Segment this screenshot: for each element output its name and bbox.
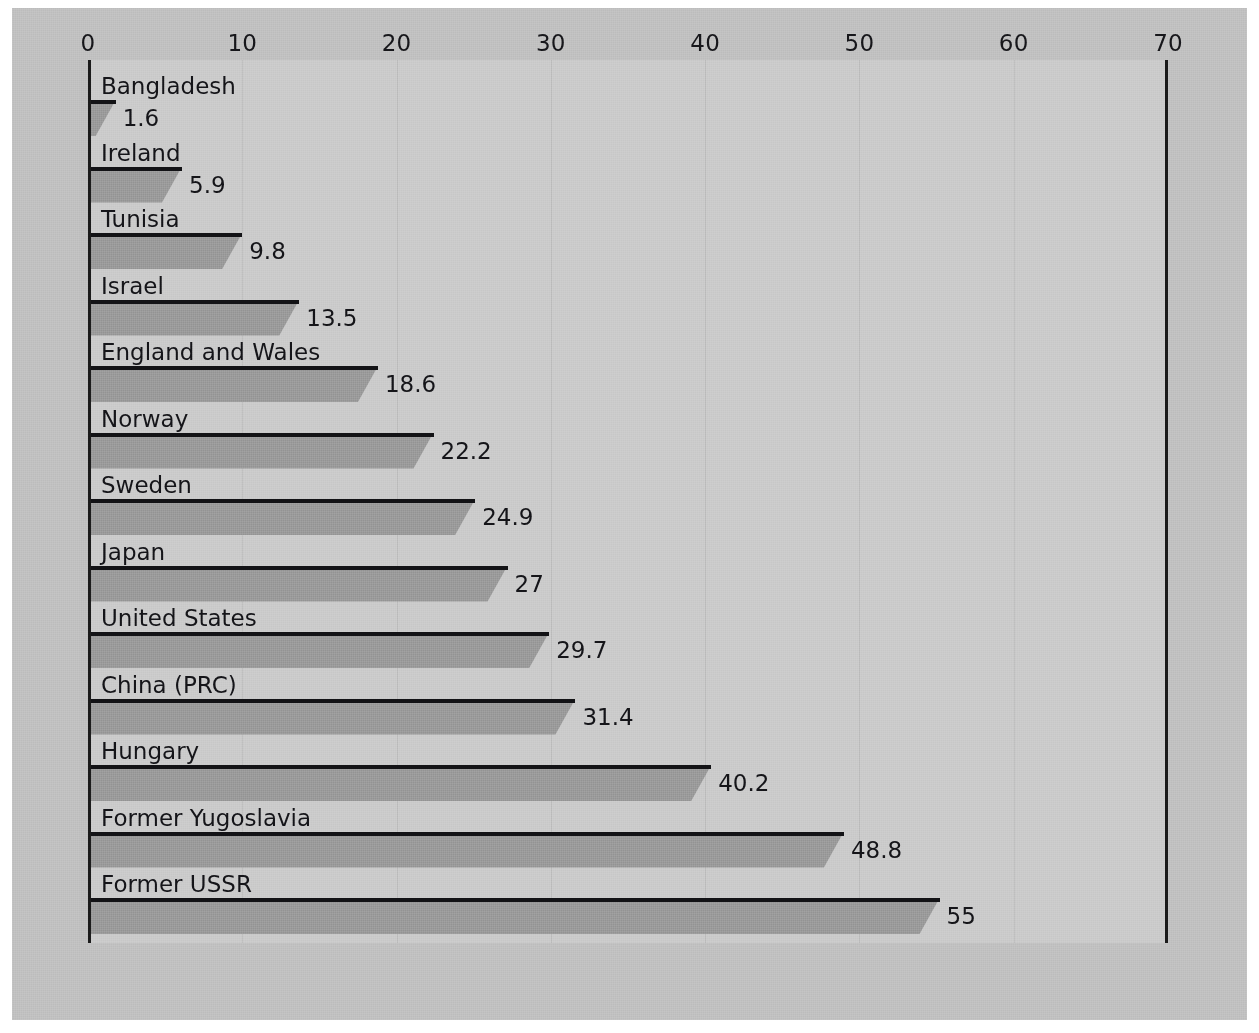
bar-row: England and Wales18.6 bbox=[91, 338, 1168, 402]
bar-category-label: United States bbox=[101, 604, 257, 632]
bar-top-edge bbox=[91, 832, 844, 836]
bar-value-label: 5.9 bbox=[189, 171, 226, 199]
bar[interactable] bbox=[91, 632, 549, 668]
bar-value-label: 13.5 bbox=[306, 304, 357, 332]
bar-top-edge bbox=[91, 366, 378, 370]
plot-area: Bangladesh1.6Ireland5.9Tunisia9.8Israel1… bbox=[88, 60, 1168, 943]
bar-category-label: Sweden bbox=[101, 471, 192, 499]
bar[interactable] bbox=[91, 167, 182, 203]
bar-top-edge bbox=[91, 433, 434, 437]
x-tick-label: 70 bbox=[1153, 30, 1183, 56]
bar-category-label: Former USSR bbox=[101, 870, 252, 898]
bar-top-edge bbox=[91, 632, 549, 636]
bar-value-label: 40.2 bbox=[718, 769, 769, 797]
x-tick-label: 40 bbox=[690, 30, 720, 56]
bar-value-label: 27 bbox=[515, 570, 544, 598]
bar-value-label: 9.8 bbox=[249, 237, 286, 265]
bar-category-label: Japan bbox=[101, 538, 165, 566]
bar-row: China (PRC)31.4 bbox=[91, 671, 1168, 735]
bar[interactable] bbox=[91, 233, 242, 269]
bar-value-label: 48.8 bbox=[851, 836, 902, 864]
bar[interactable] bbox=[91, 832, 844, 868]
bar-row: United States29.7 bbox=[91, 604, 1168, 668]
x-axis-tick-labels: 010203040506070 bbox=[12, 30, 1247, 60]
bar[interactable] bbox=[91, 499, 475, 535]
bar-category-label: China (PRC) bbox=[101, 671, 237, 699]
bar[interactable] bbox=[91, 765, 711, 801]
bar-row: Former Yugoslavia48.8 bbox=[91, 804, 1168, 868]
bar-row: Norway22.2 bbox=[91, 405, 1168, 469]
x-tick-label: 50 bbox=[845, 30, 875, 56]
bar-category-label: Bangladesh bbox=[101, 72, 236, 100]
bar[interactable] bbox=[91, 300, 299, 336]
bar-category-label: Tunisia bbox=[101, 205, 180, 233]
bar-value-label: 18.6 bbox=[385, 370, 436, 398]
bar-category-label: England and Wales bbox=[101, 338, 320, 366]
chart-figure: 010203040506070 Bangladesh1.6Ireland5.9T… bbox=[12, 8, 1247, 1020]
bar-value-label: 1.6 bbox=[123, 104, 160, 132]
bar-top-edge bbox=[91, 233, 242, 237]
bar-value-label: 55 bbox=[947, 902, 976, 930]
bar-top-edge bbox=[91, 167, 182, 171]
x-tick-label: 0 bbox=[81, 30, 96, 56]
bar-value-label: 24.9 bbox=[482, 503, 533, 531]
x-tick-label: 20 bbox=[382, 30, 412, 56]
bar-value-label: 31.4 bbox=[582, 703, 633, 731]
bar-category-label: Former Yugoslavia bbox=[101, 804, 311, 832]
bar-value-label: 22.2 bbox=[441, 437, 492, 465]
x-tick-label: 10 bbox=[227, 30, 257, 56]
bar-category-label: Hungary bbox=[101, 737, 199, 765]
bar-rows: Bangladesh1.6Ireland5.9Tunisia9.8Israel1… bbox=[88, 60, 1168, 943]
bar-top-edge bbox=[91, 765, 711, 769]
bar-top-edge bbox=[91, 499, 475, 503]
bar-category-label: Israel bbox=[101, 272, 164, 300]
bar-category-label: Ireland bbox=[101, 139, 181, 167]
x-tick-label: 30 bbox=[536, 30, 566, 56]
bar-row: Ireland5.9 bbox=[91, 139, 1168, 203]
bar-row: Tunisia9.8 bbox=[91, 205, 1168, 269]
bar[interactable] bbox=[91, 433, 434, 469]
bar[interactable] bbox=[91, 898, 940, 934]
x-tick-label: 60 bbox=[999, 30, 1029, 56]
bar-top-edge bbox=[91, 898, 940, 902]
bar-row: Israel13.5 bbox=[91, 272, 1168, 336]
bar-top-edge bbox=[91, 566, 508, 570]
bar-top-edge bbox=[91, 100, 116, 104]
bar[interactable] bbox=[91, 100, 116, 136]
bar-value-label: 29.7 bbox=[556, 636, 607, 664]
bar-top-edge bbox=[91, 300, 299, 304]
bar[interactable] bbox=[91, 699, 575, 735]
bar-top-edge bbox=[91, 699, 575, 703]
bar[interactable] bbox=[91, 566, 508, 602]
bar-row: Sweden24.9 bbox=[91, 471, 1168, 535]
bar-category-label: Norway bbox=[101, 405, 188, 433]
bar-row: Former USSR55 bbox=[91, 870, 1168, 934]
bar-row: Bangladesh1.6 bbox=[91, 72, 1168, 136]
bar-row: Hungary40.2 bbox=[91, 737, 1168, 801]
bar[interactable] bbox=[91, 366, 378, 402]
bar-row: Japan27 bbox=[91, 538, 1168, 602]
